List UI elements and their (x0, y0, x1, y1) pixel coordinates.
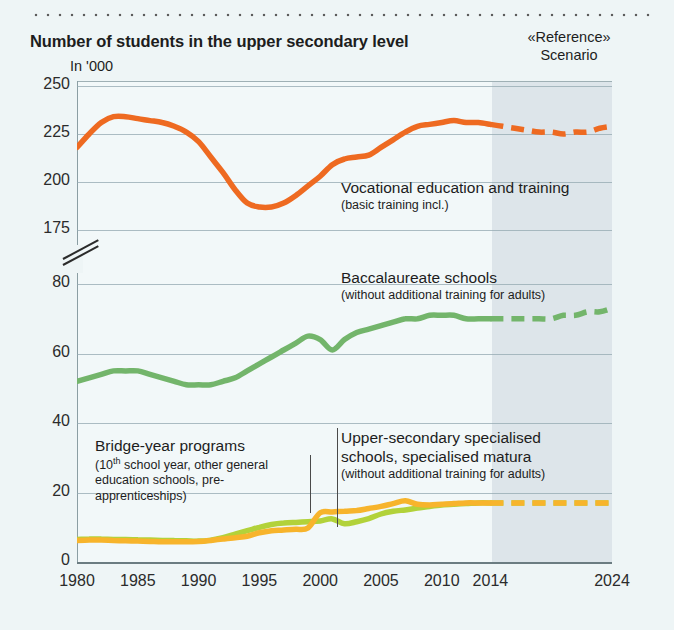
annotation-vocational-title: Vocational education and training (341, 179, 569, 198)
y-tick-80: 80 (22, 273, 70, 291)
x-tick-2014: 2014 (473, 572, 509, 590)
annotation-specialised-title-2: schools, specialised matura (341, 447, 545, 466)
leader-line-specialised (337, 428, 338, 527)
x-tick-1985: 1985 (120, 572, 156, 590)
annotation-bridge-year-sub: (10th school year, other general educati… (95, 456, 310, 505)
gridline-175 (77, 230, 612, 231)
page-title: Number of students in the upper secondar… (30, 32, 409, 51)
gridline-40 (77, 423, 612, 424)
leader-line-bridge-year (310, 455, 311, 513)
gridline-60 (77, 354, 612, 355)
x-tick-2024: 2024 (594, 572, 630, 590)
scenario-label: «Reference» Scenario (494, 28, 644, 64)
y-tick-200: 200 (22, 171, 70, 189)
plot-axis-y-line (77, 81, 78, 563)
y-tick-40: 40 (22, 412, 70, 430)
scenario-label-line2: Scenario (494, 46, 644, 64)
annotation-vocational-sub: (basic training incl.) (341, 198, 569, 214)
top-dotted-rule (30, 13, 650, 17)
y-tick-60: 60 (22, 343, 70, 361)
y-tick-225: 225 (22, 123, 70, 141)
annotation-baccalaureate: Baccalaureate schools (without additiona… (341, 269, 545, 303)
x-tick-2005: 2005 (363, 572, 399, 590)
y-tick-20: 20 (22, 482, 70, 500)
forecast-shaded-band (492, 82, 612, 562)
annotation-baccalaureate-title: Baccalaureate schools (341, 269, 545, 288)
annotation-specialised: Upper-secondary specialised schools, spe… (341, 428, 545, 482)
annotation-specialised-sub: (without additional training for adults) (341, 467, 545, 483)
chart-root: Number of students in the upper secondar… (0, 0, 674, 630)
y-axis-labels: 020406080175200225250 (12, 0, 70, 630)
x-tick-1980: 1980 (59, 572, 95, 590)
annotation-bridge-year-title: Bridge-year programs (95, 437, 310, 456)
annotation-baccalaureate-sub: (without additional training for adults) (341, 288, 545, 304)
plot-axis-x-line (77, 562, 612, 564)
x-tick-1995: 1995 (242, 572, 278, 590)
y-axis-unit-label: In '000 (70, 58, 113, 74)
x-tick-2010: 2010 (424, 572, 460, 590)
annotation-bridge-year: Bridge-year programs (10th school year, … (95, 437, 310, 505)
gridline-250 (77, 86, 612, 87)
plot-border-top (77, 81, 612, 82)
y-tick-250: 250 (22, 75, 70, 93)
y-tick-175: 175 (22, 219, 70, 237)
scenario-label-line1: «Reference» (494, 28, 644, 46)
ordinal-suffix: th (113, 456, 121, 466)
y-tick-0: 0 (22, 551, 70, 569)
annotation-vocational: Vocational education and training (basic… (341, 179, 569, 213)
annotation-specialised-title-1: Upper-secondary specialised (341, 428, 545, 447)
gridline-225 (77, 134, 612, 135)
x-tick-1990: 1990 (181, 572, 217, 590)
y-axis-break-icon (63, 248, 99, 270)
x-tick-2000: 2000 (302, 572, 338, 590)
